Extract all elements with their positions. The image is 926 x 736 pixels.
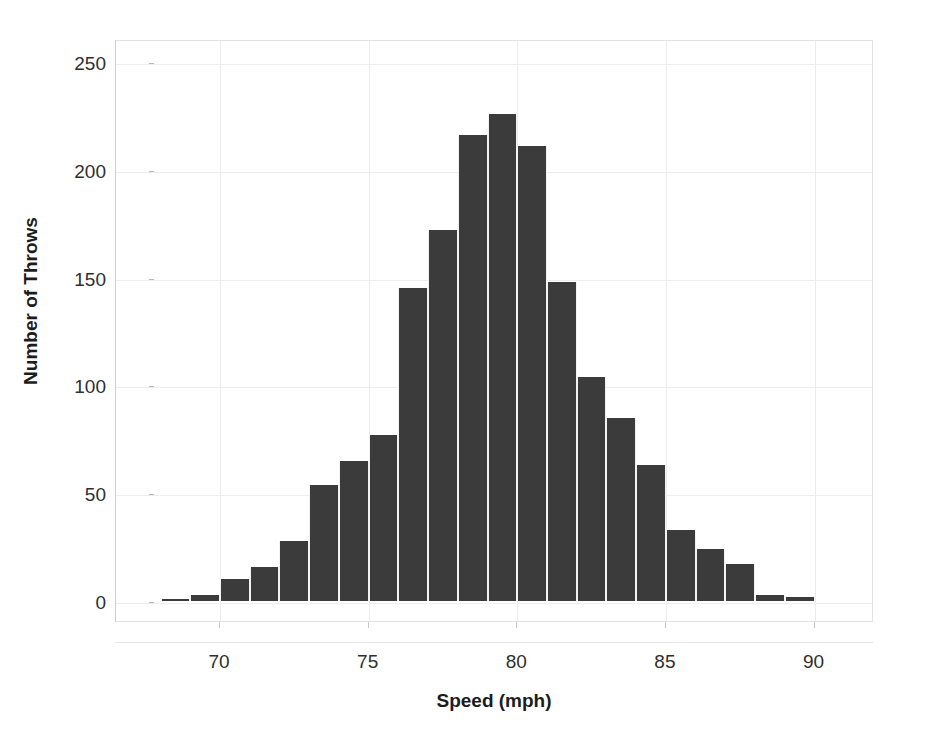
x-axis-line — [115, 642, 873, 643]
histogram-bar — [309, 485, 339, 601]
histogram-bar — [636, 465, 666, 601]
histogram-bar — [190, 595, 220, 601]
y-tick-label: 150 — [74, 269, 106, 288]
histogram-bar — [369, 435, 399, 601]
histogram-bar — [488, 114, 518, 601]
x-tick-label: 90 — [803, 652, 824, 671]
plot-area — [115, 40, 873, 622]
x-tick-mark — [814, 622, 815, 628]
x-tick-label: 75 — [357, 652, 378, 671]
x-tick-mark — [516, 622, 517, 628]
histogram-bar — [785, 597, 815, 601]
histogram-bar — [666, 530, 696, 601]
x-axis-title: Speed (mph) — [115, 690, 873, 712]
histogram-bar — [279, 541, 309, 601]
histogram-bar — [161, 599, 191, 601]
x-tick-mark — [219, 622, 220, 628]
histogram-bar — [220, 579, 250, 601]
histogram-bar — [428, 230, 458, 601]
histogram-bar — [339, 461, 369, 601]
y-tick-mark — [149, 602, 154, 603]
histogram-bar — [696, 549, 726, 601]
y-tick-label: 200 — [74, 161, 106, 180]
y-tick-label: 100 — [74, 377, 106, 396]
y-tick-mark — [149, 386, 154, 387]
histogram-bar — [250, 567, 280, 601]
histogram-bar — [606, 418, 636, 601]
x-tick-mark — [368, 622, 369, 628]
y-axis-line — [115, 40, 116, 622]
y-tick-mark — [149, 279, 154, 280]
histogram-bar — [725, 564, 755, 601]
histogram-bar — [755, 595, 785, 601]
y-tick-mark — [149, 494, 154, 495]
y-tick-mark — [149, 63, 154, 64]
histogram-bar — [547, 282, 577, 601]
x-tick-label: 85 — [654, 652, 675, 671]
y-tick-label: 50 — [85, 485, 106, 504]
histogram-figure: 050100150200250 7075808590 Number of Thr… — [0, 0, 926, 736]
x-tick-mark — [665, 622, 666, 628]
y-axis-title: Number of Throws — [20, 131, 46, 471]
histogram-bar — [398, 288, 428, 601]
histogram-bar — [517, 146, 547, 601]
y-tick-mark — [149, 171, 154, 172]
x-tick-label: 70 — [208, 652, 229, 671]
histogram-bar — [577, 377, 607, 601]
x-tick-label: 80 — [506, 652, 527, 671]
y-axis-ticks: 050100150200250 — [40, 0, 106, 736]
y-tick-label: 250 — [74, 54, 106, 73]
y-tick-label: 0 — [95, 593, 106, 612]
histogram-bar — [458, 135, 488, 601]
bar-series — [116, 41, 872, 621]
